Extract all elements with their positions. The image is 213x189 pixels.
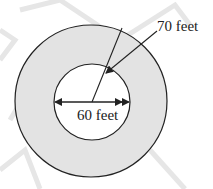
outer-radius-label: 70 feet <box>157 18 199 34</box>
inner-diameter-label: 60 feet <box>77 107 119 123</box>
annulus-diagram: 70 feet 60 feet <box>0 0 213 189</box>
